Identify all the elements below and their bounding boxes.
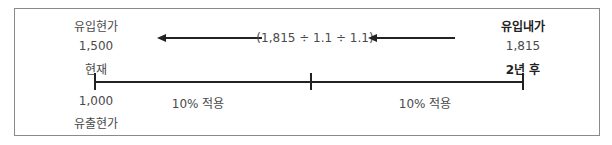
inflow-present-value: 1,500 [79, 39, 113, 53]
segment-rate-label-2: 10% 적용 [399, 94, 452, 111]
timeline [95, 81, 523, 83]
timeline-tick-mid [310, 73, 312, 90]
discount-arrow-line-left [164, 37, 262, 39]
inflow-present-label: 유입현가 [74, 17, 118, 34]
segment-rate-label-1: 10% 적용 [172, 94, 225, 111]
outflow-present-label: 유출현가 [74, 114, 118, 131]
timeline-tick-end [522, 73, 524, 90]
outflow-present-value: 1,000 [79, 94, 113, 108]
inflow-future-label: 유입내가 [501, 17, 545, 34]
inflow-future-value: 1,815 [506, 39, 540, 53]
time-present-label: 현재 [85, 60, 107, 77]
discount-arrow-line-right [375, 37, 455, 39]
timeline-tick-start [94, 73, 96, 90]
discount-formula: (1,815 ÷ 1.1 ÷ 1.1) [256, 31, 373, 45]
